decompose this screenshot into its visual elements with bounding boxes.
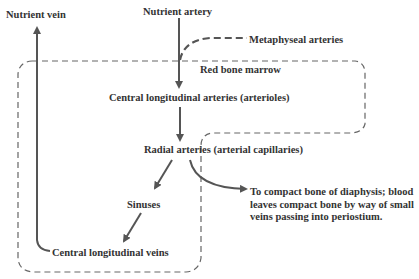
metaphyseal-arteries-curve — [180, 38, 247, 60]
label-nutrient-vein: Nutrient vein — [6, 9, 66, 21]
arrow-radial-to-sinuses — [155, 160, 172, 188]
label-red-bone-marrow: Red bone marrow — [200, 64, 281, 76]
arrow-radial-to-compact-bone — [190, 160, 246, 189]
label-central-longitudinal-arteries: Central longitudinal arteries (arteriole… — [109, 92, 290, 104]
label-metaphyseal-arteries: Metaphyseal arteries — [249, 34, 343, 46]
label-central-longitudinal-veins: Central longitudinal veins — [52, 247, 169, 259]
arrow-sinuses-to-veins — [124, 213, 141, 241]
label-compact-bone-note: To compact bone of diaphysis; blood leav… — [250, 186, 419, 224]
label-nutrient-artery: Nutrient artery — [143, 6, 212, 18]
label-sinuses: Sinuses — [127, 199, 160, 211]
label-radial-arteries: Radial arteries (arterial capillaries) — [144, 144, 303, 156]
